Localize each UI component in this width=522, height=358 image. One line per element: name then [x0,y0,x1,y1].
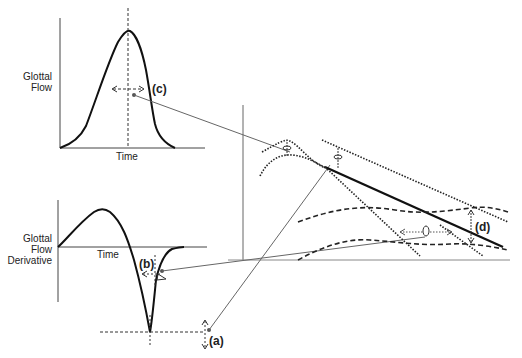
top-xlabel: Time [116,151,138,162]
h-cylinder-icon [423,226,429,236]
dashed-envelope-lower [298,240,508,260]
peak-curve-upper [262,140,325,168]
top-ylabel-line2: Flow [20,82,52,93]
annotation-c: (c) [152,82,167,96]
connector-a [209,165,330,330]
spectrum-plot [134,95,510,330]
annotation-d: (d) [475,220,490,234]
bottom-ylabel-line3: Derivative [2,255,52,266]
top-ylabel: Glottal Flow [20,71,52,93]
bottom-xlabel: Time [97,249,119,260]
bottom-ylabel-line1: Glottal [2,233,52,244]
spectral-tilt-upper [322,140,508,222]
bottom-ylabel-line2: Flow [2,244,52,255]
bottom-ylabel: Glottal Flow Derivative [2,233,52,266]
glottal-flow-derivative-plot [58,200,211,349]
connector-c [134,95,290,152]
peak-curve-lower [260,155,326,176]
annotation-b: (b) [139,257,154,271]
b-arrow-right-icon [157,274,166,280]
connector-b [162,237,425,271]
glottal-flow-plot [60,8,205,148]
annotation-a: (a) [209,334,224,348]
diagram-canvas [0,0,522,358]
top-ylabel-line1: Glottal [20,71,52,82]
